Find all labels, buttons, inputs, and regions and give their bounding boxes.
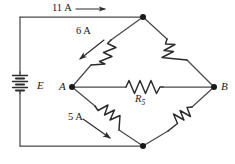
wire-branch-a-bottom-upper [72, 87, 95, 106]
resistor-lower-right [168, 107, 192, 131]
resistor-label-r5: R5 [135, 94, 145, 107]
wire-branch-top-a-lower [72, 65, 91, 87]
node-a-dot [69, 84, 75, 90]
resistor-lower-left [95, 105, 120, 130]
node-top-dot [140, 14, 146, 20]
arrow-current-upper [80, 40, 104, 59]
current-label-lower-left-branch: 5 A [68, 112, 83, 123]
circuit-schematic-svg [0, 0, 235, 164]
arrow-current-lower [83, 119, 110, 138]
current-label-upper-left-branch: 6 A [76, 26, 91, 37]
junction-dots [69, 14, 217, 149]
circuit-diagram-figure: 11 A 6 A 5 A A B E R5 [0, 0, 235, 164]
wire-branch-top-b-upper [143, 17, 167, 39]
resistor-bridge-r5 [126, 81, 163, 94]
wire-branch-top-b-lower [187, 60, 214, 87]
node-b-dot [211, 84, 217, 90]
node-bottom-dot [140, 143, 146, 149]
source-label-e: E [37, 80, 44, 91]
wire-branch-top-a-upper [111, 17, 143, 40]
resistor-upper-right [162, 39, 187, 60]
node-label-a: A [59, 81, 66, 92]
wire-branch-b-bottom-upper [192, 87, 214, 107]
resistor-label-r5-subscript: 5 [141, 98, 145, 107]
wire-branch-b-bottom-lower [143, 131, 168, 146]
resistor-upper-left [91, 40, 116, 65]
current-label-top: 11 A [52, 3, 72, 14]
node-label-b: B [221, 81, 228, 92]
battery-symbol [13, 72, 28, 93]
wire-branch-a-bottom-lower [119, 130, 143, 146]
